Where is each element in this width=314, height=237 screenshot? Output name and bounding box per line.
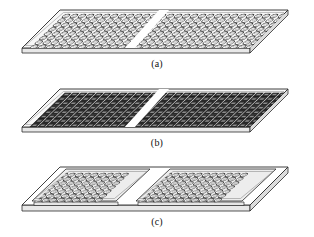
panel-b-artwork [0, 79, 314, 141]
subplate-right-front-edge [138, 202, 244, 206]
panel-a-svg [0, 0, 314, 62]
panel-b: (b) [0, 79, 314, 158]
board-front-edge [22, 48, 250, 53]
panel-b-svg [0, 79, 314, 141]
panel-c-artwork [0, 158, 314, 220]
panel-b-caption: (b) [0, 137, 314, 149]
subplate-left-front-edge [34, 202, 118, 206]
base-board-front-edge [22, 205, 250, 211]
panel-c: (c) [0, 158, 314, 237]
figure-container: (a) [0, 0, 314, 237]
panel-a-artwork [0, 0, 314, 62]
panel-c-caption: (c) [0, 216, 314, 228]
panel-c-svg [0, 158, 314, 220]
panel-a-caption: (a) [0, 58, 314, 70]
board-front-edge [22, 127, 250, 132]
panel-a: (a) [0, 0, 314, 79]
